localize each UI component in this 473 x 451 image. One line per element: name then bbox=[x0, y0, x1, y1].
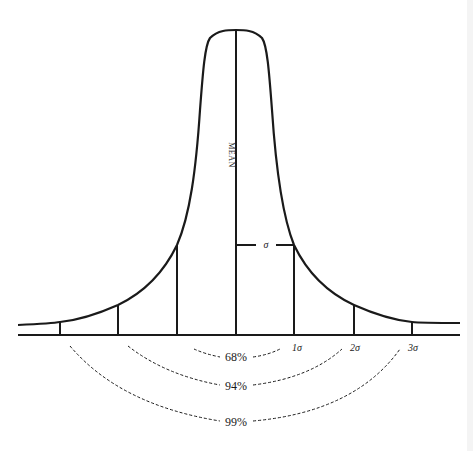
tick-label-1-sigma: 1σ bbox=[292, 342, 303, 353]
bell-curve bbox=[18, 30, 460, 325]
arc-94-left bbox=[128, 346, 220, 385]
range-label-94: 94% bbox=[225, 379, 247, 393]
tick-label-3-sigma: 3σ bbox=[407, 342, 419, 353]
arc-94-right bbox=[253, 349, 342, 385]
arc-68-right bbox=[253, 349, 280, 357]
sigma-label: σ bbox=[264, 239, 270, 250]
bell-curve-diagram: σ MEAN 1σ 2σ 3σ 68% 94% 99% bbox=[0, 0, 473, 451]
mean-label: MEAN bbox=[227, 142, 236, 168]
arc-99-right bbox=[253, 349, 400, 421]
arc-68-left bbox=[194, 349, 220, 357]
tick-label-2-sigma: 2σ bbox=[350, 342, 361, 353]
range-label-99: 99% bbox=[225, 415, 247, 429]
range-label-68: 68% bbox=[225, 350, 247, 364]
